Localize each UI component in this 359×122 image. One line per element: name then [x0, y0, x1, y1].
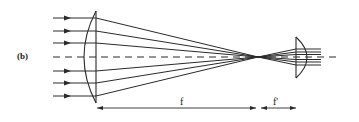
panel-label: (b)	[17, 52, 28, 61]
focal-length-f-label: f	[180, 97, 183, 107]
diverging-rays	[258, 49, 296, 65]
focal-length-f-prime-label: f'	[273, 97, 278, 107]
